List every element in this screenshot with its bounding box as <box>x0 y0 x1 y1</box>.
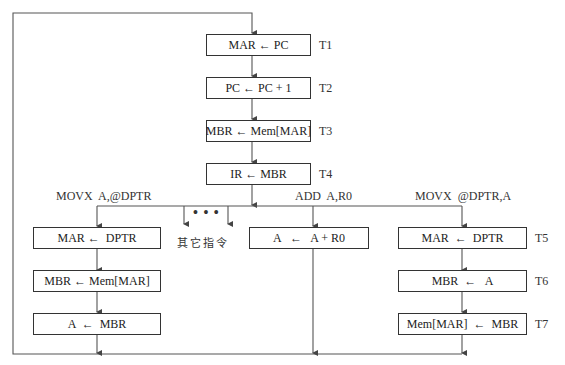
time-label: T4 <box>319 167 332 182</box>
time-label: T3 <box>319 124 332 139</box>
time-label: T5 <box>535 231 548 246</box>
movx-read-step-box: MBR ← Mem[MAR] <box>33 270 161 292</box>
time-label: T2 <box>319 81 332 96</box>
fetch-step-box: PC ← PC + 1 <box>206 77 311 99</box>
movx-write-step-box: Mem[MAR] ← MBR <box>398 313 527 335</box>
movx-write-step-box: MBR ← A <box>398 270 527 292</box>
time-label: T7 <box>535 317 548 332</box>
movx-write-step-box: MAR ← DPTR <box>398 227 527 249</box>
branch-label-movx-read: MOVX A,@DPTR <box>56 189 151 204</box>
fetch-step-box: MBR ← Mem[MAR] <box>206 120 311 142</box>
ellipsis-icon: • • • <box>193 205 220 221</box>
add-step-box: A ← A + R0 <box>249 227 369 249</box>
branch-label-add: ADD A,R0 <box>295 189 352 204</box>
movx-read-step-box: A ← MBR <box>33 313 161 335</box>
time-label: T6 <box>535 274 548 289</box>
fetch-step-box: IR ← MBR <box>206 163 311 185</box>
time-label: T1 <box>319 38 332 53</box>
other-instructions-label: 其它指令 <box>177 234 229 250</box>
branch-label-movx-write: MOVX @DPTR,A <box>415 189 511 204</box>
fetch-step-box: MAR ← PC <box>206 34 311 56</box>
movx-read-step-box: MAR ← DPTR <box>33 227 161 249</box>
